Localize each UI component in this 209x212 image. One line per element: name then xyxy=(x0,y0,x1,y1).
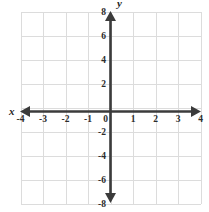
x-axis-label: x xyxy=(8,105,15,117)
x-tick-label: 0 xyxy=(103,114,108,124)
y-tick-label: -6 xyxy=(98,175,106,185)
x-tick-label: 2 xyxy=(153,114,158,124)
coordinate-plane: -4-3-2-101234 8642-2-4-6-8 x y xyxy=(0,0,209,212)
x-tick-label: -3 xyxy=(39,114,47,124)
y-tick-label: -2 xyxy=(98,127,106,137)
y-tick-label: -8 xyxy=(98,199,106,209)
x-tick-label: 1 xyxy=(131,114,136,124)
y-tick-label: 4 xyxy=(101,55,106,65)
x-tick-label: 3 xyxy=(176,114,181,124)
y-tick-label: 8 xyxy=(101,7,106,17)
y-tick-label: -4 xyxy=(98,151,106,161)
x-tick-label: 4 xyxy=(198,114,203,124)
x-tick-label: -2 xyxy=(62,114,70,124)
y-tick-label: 6 xyxy=(101,31,106,41)
y-tick-label: 2 xyxy=(101,79,106,89)
x-tick-label: -1 xyxy=(84,114,92,124)
y-axis-label: y xyxy=(115,0,122,9)
x-tick-label: -4 xyxy=(17,114,25,124)
